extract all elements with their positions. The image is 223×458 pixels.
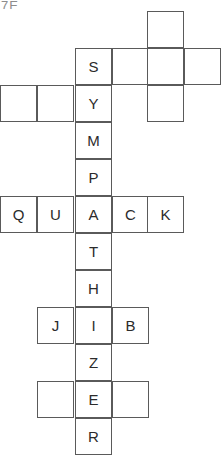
cell-r2-c2[interactable]: Y (75, 85, 112, 122)
cell-r8-c1[interactable]: J (37, 307, 74, 344)
cell-r10-c2[interactable]: E (75, 381, 112, 418)
cell-r8-c3[interactable]: B (112, 307, 149, 344)
cell-r4-c2[interactable]: P (75, 159, 112, 196)
cell-r6-c2[interactable]: T (75, 233, 112, 270)
cell-r2-c0[interactable] (0, 85, 37, 122)
cell-r5-c3[interactable]: C (112, 196, 149, 233)
cell-r5-c1[interactable]: U (37, 196, 74, 233)
cell-r3-c2[interactable]: M (75, 122, 112, 159)
cell-r10-c1[interactable] (37, 381, 74, 418)
corner-label: 7E (1, 0, 27, 9)
cell-r2-c1[interactable] (37, 85, 74, 122)
cell-r1-c2[interactable]: S (75, 48, 112, 85)
cell-r2-c4[interactable] (147, 85, 184, 122)
cell-r7-c2[interactable]: H (75, 270, 112, 307)
cell-r11-c2[interactable]: R (75, 418, 112, 455)
cell-r5-c4[interactable]: K (147, 196, 184, 233)
crossword-grid: 7E SYMPQUACKTHJIBZER (0, 0, 223, 458)
cell-r1-c3[interactable] (112, 48, 149, 85)
cell-r1-c4[interactable] (147, 48, 184, 85)
cell-r9-c2[interactable]: Z (75, 344, 112, 381)
cell-r5-c2[interactable]: A (75, 196, 112, 233)
cell-r5-c0[interactable]: Q (0, 196, 37, 233)
cell-r0-c3[interactable] (147, 11, 184, 48)
cell-r1-c5[interactable] (184, 48, 221, 85)
cell-r10-c3[interactable] (112, 381, 149, 418)
cell-r8-c2[interactable]: I (75, 307, 112, 344)
